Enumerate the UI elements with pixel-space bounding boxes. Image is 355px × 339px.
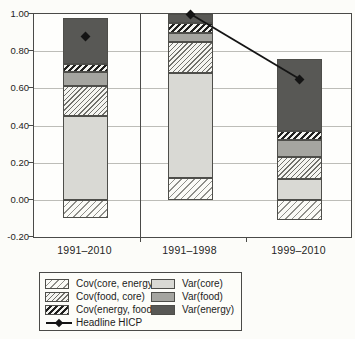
x-axis-tick — [246, 238, 247, 242]
y-axis-label: 0.60 — [0, 82, 29, 93]
bar-segment-cov-food-core-1999-2010 — [277, 157, 322, 179]
legend-swatch-cov-food-core — [45, 292, 69, 302]
y-axis-label: -0.20 — [0, 231, 29, 242]
bar-segment-var-food-1991-2010 — [63, 72, 108, 87]
bar-segment-cov-core-energy-1991-1998 — [168, 178, 213, 200]
bar-segment-cov-core-energy-1991-2010 — [63, 200, 108, 219]
y-axis-label: 1.00 — [0, 8, 29, 19]
legend-label-var-core: Var(core) — [182, 278, 223, 290]
bar-segment-cov-core-energy-1999-2010 — [277, 200, 322, 220]
y-axis-label: 0.80 — [0, 45, 29, 56]
bar-segment-var-core-1999-2010 — [277, 179, 322, 199]
y-axis-tick — [28, 87, 33, 88]
x-axis-label-1991-1998: 1991–1998 — [140, 244, 240, 256]
y-axis-label: 0.00 — [0, 194, 29, 205]
y-axis-tick — [28, 199, 33, 200]
legend-swatch-var-food — [151, 292, 175, 302]
y-axis-tick — [28, 125, 33, 126]
bar-segment-cov-energy-food-1991-2010 — [63, 64, 108, 71]
plot-area — [33, 13, 352, 238]
legend-swatch-var-core — [151, 279, 175, 289]
legend-label-cov-food-core: Cov(food, core) — [76, 291, 145, 303]
legend-label-cov-core-energy: Cov(core, energy) — [76, 278, 156, 290]
bar-segment-var-energy-1999-2010 — [277, 59, 322, 131]
legend-label-var-food: Var(food) — [182, 291, 223, 303]
y-axis-label: 0.40 — [0, 120, 29, 131]
legend-swatch-var-energy — [151, 305, 175, 315]
legend-label-var-energy: Var(energy) — [182, 304, 234, 316]
x-axis-label-1991-2010: 1991–2010 — [35, 244, 135, 256]
y-axis-tick — [28, 13, 33, 14]
legend-swatch-cov-core-energy — [45, 279, 69, 289]
bar-segment-cov-food-core-1991-2010 — [63, 86, 108, 116]
y-axis-tick — [28, 162, 33, 163]
bar-segment-var-core-1991-1998 — [168, 73, 213, 177]
legend-label-headline-hicp: Headline HICP — [76, 317, 142, 329]
y-axis-tick — [28, 236, 33, 237]
bar-segment-cov-food-core-1991-1998 — [168, 42, 213, 74]
bar-segment-cov-energy-food-1999-2010 — [277, 131, 322, 140]
x-axis-label-1999-2010: 1999–2010 — [249, 244, 349, 256]
x-axis-tick — [140, 238, 141, 242]
y-axis-tick — [28, 50, 33, 51]
legend: Cov(core, energy)Cov(food, core)Cov(ener… — [39, 272, 242, 331]
bar-segment-var-food-1991-1998 — [168, 33, 213, 42]
legend-label-cov-energy-food: Cov(energy, food) — [76, 304, 155, 316]
bar-segment-var-core-1991-2010 — [63, 116, 108, 200]
legend-swatch-cov-energy-food — [45, 305, 69, 315]
y-axis-label: 0.20 — [0, 157, 29, 168]
variance-decomposition-figure: 1.000.800.600.400.200.00-0.20 1991–20101… — [0, 0, 355, 339]
diamond-marker-icon — [55, 319, 63, 327]
bar-segment-cov-energy-food-1991-1998 — [168, 23, 213, 32]
panel-divider — [140, 14, 141, 237]
bar-segment-var-food-1999-2010 — [277, 140, 322, 157]
